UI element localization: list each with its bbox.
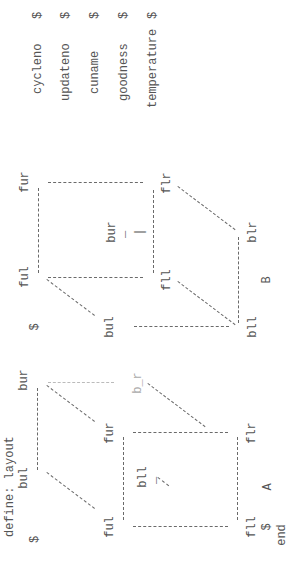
field-name-cuname: cuname: [89, 51, 101, 94]
cube-b-diagonal-upper-left: [46, 279, 95, 316]
field-marker: $: [32, 12, 44, 19]
cube-a-label-blr: b_r: [132, 372, 144, 394]
cube-a-hidden-tick: _: [146, 477, 158, 484]
cube-a-back-top-edge: [37, 388, 38, 470]
cube-a-label-fll: fll: [246, 516, 258, 538]
cube-b-back-left-edge: [134, 326, 229, 327]
cube-a-front-right-edge: [133, 432, 228, 433]
cube-b-diagonal-lower-left: [177, 281, 235, 325]
field-marker: $: [147, 12, 159, 19]
cube-a-front-bottom-edge: [237, 437, 238, 520]
field-name-goodness: goodness: [118, 43, 130, 101]
cube-a-marker: $: [29, 536, 41, 543]
cube-b-front-bottom-edge: [153, 190, 154, 273]
cube-a-name: A: [262, 483, 274, 490]
cube-a-diagonal-upper-right: [46, 385, 95, 422]
cube-b-label-flr: flr: [161, 172, 173, 194]
cube-a-label-flr: flr: [246, 422, 258, 444]
cube-a-diagonal-lower-right: [147, 383, 205, 427]
field-marker: $: [89, 12, 101, 19]
cube-b-label-fur: fur: [19, 171, 31, 193]
cube-a-diagonal-hidden: [157, 477, 169, 486]
layout-definition-page: define: layout $ bul bur b_r ful fur bll…: [0, 0, 295, 576]
define-layout-header: define: layout: [4, 436, 16, 537]
cube-b-label-fll: fll: [161, 269, 173, 291]
cube-a-front-top-edge: [123, 437, 124, 520]
cube-a-label-fur: fur: [104, 422, 116, 444]
cube-b-front-right-edge: [48, 182, 143, 183]
cube-a-diagonal-upper-left: [46, 472, 95, 509]
cube-b-label-bll: bll: [247, 316, 259, 338]
cube-b-name: B: [261, 276, 273, 283]
cube-b-label-bul: bul: [104, 316, 116, 338]
cube-b-label-ful: ful: [19, 266, 31, 288]
footer-marker: $: [261, 523, 273, 530]
field-marker: $: [60, 12, 72, 19]
cube-b-front-top-edge: [38, 188, 39, 273]
end-keyword: end: [276, 524, 288, 546]
field-name-updateno: updateno: [60, 43, 72, 101]
cube-a-front-left-edge: [133, 526, 228, 527]
cube-b-hidden-bar: |: [134, 228, 146, 235]
cube-b-hidden-tick: _: [115, 231, 127, 238]
field-marker: $: [118, 12, 130, 19]
cube-b-back-bottom-edge: [238, 237, 239, 323]
cube-a-label-ful: ful: [104, 516, 116, 538]
cube-b-label-blr: blr: [247, 221, 259, 243]
cube-a-back-right-edge: [48, 382, 114, 383]
cube-b-marker: $: [29, 323, 41, 330]
cube-b-diagonal-lower-right: [177, 186, 235, 230]
field-name-temperature: temperature: [147, 29, 159, 108]
cube-a-label-bul: bul: [18, 467, 30, 489]
field-name-cycleno: cycleno: [32, 44, 44, 94]
cube-b-front-left-edge: [48, 277, 143, 278]
cube-a-label-bur: bur: [18, 369, 30, 391]
